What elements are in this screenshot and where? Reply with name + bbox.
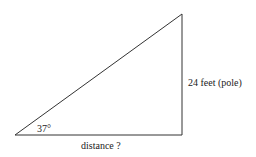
distance-label: distance ? (81, 141, 121, 151)
right-triangle (15, 14, 182, 135)
pole-height-label: 24 feet (pole) (188, 78, 242, 88)
angle-label: 37° (37, 124, 51, 134)
